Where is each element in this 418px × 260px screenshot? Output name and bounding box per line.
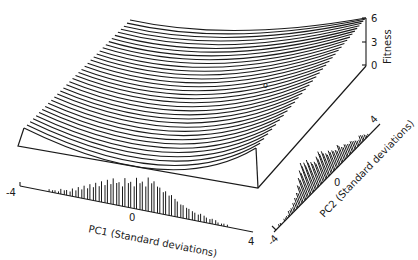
pc1-histogram <box>49 178 227 227</box>
fitness-surface-figure: 6 3 0 Fitness -4 0 4 PC1 (Standard devia… <box>0 0 418 260</box>
pc1-tick-mid: 0 <box>129 212 135 223</box>
surface-profile-line <box>130 18 366 31</box>
pc1-tick-min: -4 <box>6 187 16 198</box>
histogram-bar <box>364 135 366 139</box>
pc1-axis-label: PC1 (Standard deviations) <box>88 223 219 259</box>
fitness-tick-6: 6 <box>371 13 377 24</box>
pc2-tick-max: 4 <box>368 113 380 125</box>
fitness-axis-label: Fitness <box>382 29 393 64</box>
fitness-tick-3: 3 <box>371 37 377 48</box>
surface-marker: o <box>263 81 268 90</box>
plot-canvas: 6 3 0 Fitness -4 0 4 PC1 (Standard devia… <box>0 0 418 260</box>
fitness-axis <box>362 18 366 66</box>
pc2-tick-mid: 0 <box>334 177 340 188</box>
fitness-tick-0: 0 <box>371 60 377 71</box>
pc2-tick-min: -4 <box>266 233 281 248</box>
pc1-tick-max: 4 <box>248 236 254 247</box>
pc2-axis-tick <box>272 226 276 230</box>
surface-mesh <box>24 18 366 170</box>
surface-profile-line <box>127 19 365 34</box>
